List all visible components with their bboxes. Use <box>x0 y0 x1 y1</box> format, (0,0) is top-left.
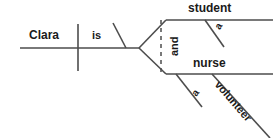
label-conjunction: and <box>169 36 180 56</box>
label-predicate-nominative-bottom: nurse <box>193 57 226 69</box>
label-subject: Clara <box>29 29 59 41</box>
sentence-diagram: Clara is student nurse and a a volunteer <box>0 0 273 138</box>
fork-lower-branch <box>139 48 166 74</box>
diagram-lines <box>0 0 273 138</box>
predicate-nominative-slant <box>113 23 126 48</box>
label-verb: is <box>92 30 101 41</box>
fork-upper-branch <box>139 20 166 48</box>
label-predicate-nominative-top: student <box>188 2 231 14</box>
